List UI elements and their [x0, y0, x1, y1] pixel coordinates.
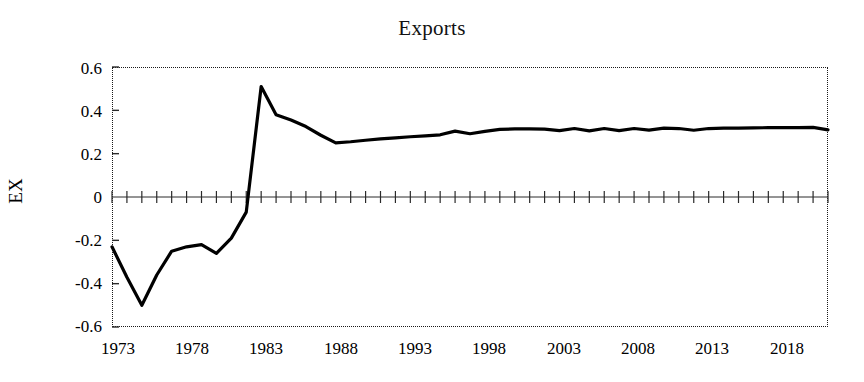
x-tick-label: 1988 — [306, 340, 376, 357]
x-tick-label: 2018 — [752, 340, 822, 357]
x-tick-label: 1973 — [83, 340, 153, 357]
plot-area — [112, 67, 828, 327]
x-tick-label: 1998 — [454, 340, 524, 357]
x-tick-label: 1993 — [380, 340, 450, 357]
x-tick-label: 2003 — [529, 340, 599, 357]
x-tick-label: 2013 — [677, 340, 747, 357]
x-tick-label: 1978 — [157, 340, 227, 357]
x-tick-label: 2008 — [603, 340, 673, 357]
x-tick-label: 1983 — [231, 340, 301, 357]
series-plot — [112, 67, 828, 327]
chart-figure: Exports EX 0.6 0.4 0.2 0 -0.2 -0.4 -0.6 … — [0, 0, 864, 382]
